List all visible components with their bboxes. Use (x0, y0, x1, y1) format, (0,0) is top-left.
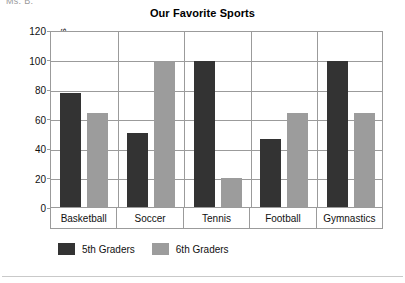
bar-basketball-6th-graders (87, 113, 108, 207)
y-axis-tick-label: 60 (35, 114, 46, 125)
y-axis-tick-label: 40 (35, 144, 46, 155)
legend-item-6th-graders: 6th Graders (152, 243, 229, 255)
y-axis-tick-label: 80 (35, 85, 46, 96)
bar-football-5th-graders (260, 139, 281, 207)
category-divider (118, 32, 119, 207)
y-axis-tick-mark (47, 119, 50, 120)
plot-area (50, 31, 383, 208)
legend-swatch-icon (152, 243, 169, 255)
category-label-gymnastics: Gymnastics (317, 208, 382, 228)
bar-soccer-5th-graders (127, 133, 148, 207)
bar-soccer-6th-graders (154, 62, 175, 207)
y-axis-tick-label: 120 (29, 26, 46, 37)
category-divider (317, 32, 318, 207)
y-axis-tick-label: 20 (35, 173, 46, 184)
bar-gymnastics-6th-graders (354, 113, 375, 207)
y-axis-tick-mark (47, 149, 50, 150)
category-divider (184, 32, 185, 207)
bar-football-6th-graders (287, 113, 308, 207)
legend-label: 5th Graders (82, 244, 135, 255)
category-label-soccer: Soccer (117, 208, 183, 228)
chart-legend: 5th Graders6th Graders (58, 243, 229, 255)
y-axis-tick-label: 100 (29, 55, 46, 66)
category-label-football: Football (250, 208, 316, 228)
legend-label: 6th Graders (176, 244, 229, 255)
category-axis: BasketballSoccerTennisFootballGymnastics (50, 208, 383, 229)
y-axis-tick-mark (47, 178, 50, 179)
y-axis-tick-mark (47, 60, 50, 61)
category-divider (251, 32, 252, 207)
page-divider (2, 276, 403, 277)
y-axis-tick-mark (47, 90, 50, 91)
category-label-tennis: Tennis (184, 208, 250, 228)
legend-swatch-icon (58, 243, 75, 255)
bar-gymnastics-5th-graders (327, 61, 348, 207)
bar-basketball-5th-graders (60, 93, 81, 207)
y-axis-tick-label: 0 (40, 203, 46, 214)
y-axis-tick-mark (47, 31, 50, 32)
bar-tennis-6th-graders (221, 178, 242, 208)
page-header-fragment: Ms. B. (6, 0, 33, 4)
category-label-basketball: Basketball (51, 208, 117, 228)
chart-plot-wrap: Number of Students 020406080100120 (50, 31, 383, 208)
bar-tennis-5th-graders (194, 61, 215, 207)
legend-item-5th-graders: 5th Graders (58, 243, 135, 255)
